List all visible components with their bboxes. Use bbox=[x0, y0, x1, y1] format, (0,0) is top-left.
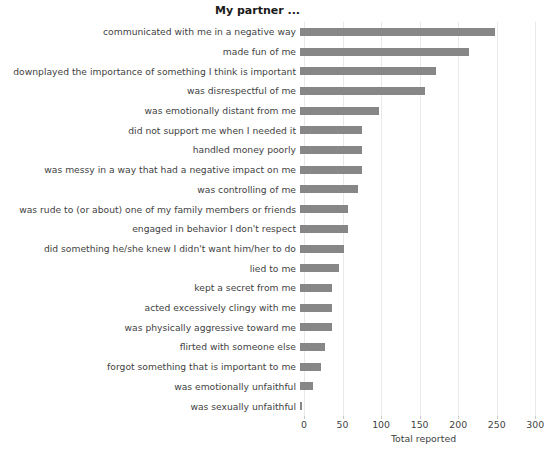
bar-track bbox=[300, 239, 543, 259]
bar-track bbox=[300, 298, 543, 318]
bar-row[interactable]: was rude to (or about) one of my family … bbox=[0, 199, 543, 219]
x-tick-label: 200 bbox=[449, 419, 467, 430]
bar-row[interactable]: engaged in behavior I don't respect bbox=[0, 219, 543, 239]
bar-track bbox=[300, 318, 543, 338]
x-tick-label: 300 bbox=[526, 419, 544, 430]
bar[interactable] bbox=[300, 343, 325, 351]
bar-track bbox=[300, 140, 543, 160]
bar-row[interactable]: made fun of me bbox=[0, 42, 543, 62]
x-tick-label: 50 bbox=[337, 419, 349, 430]
bar-track bbox=[300, 219, 543, 239]
bar-track bbox=[300, 199, 543, 219]
bar-category-label: flirted with someone else bbox=[0, 342, 300, 351]
bar-category-label: was rude to (or about) one of my family … bbox=[0, 205, 300, 214]
bar-category-label: acted excessively clingy with me bbox=[0, 303, 300, 312]
bar-row[interactable]: lied to me bbox=[0, 258, 543, 278]
bar-track bbox=[300, 101, 543, 121]
bar-track bbox=[300, 22, 543, 42]
x-axis: 050100150200250300 bbox=[304, 416, 543, 428]
x-tick-label: 250 bbox=[488, 419, 506, 430]
bar-row[interactable]: was messy in a way that had a negative i… bbox=[0, 160, 543, 180]
bar-category-label: was disrespectful of me bbox=[0, 86, 300, 95]
bar-row[interactable]: was disrespectful of me bbox=[0, 81, 543, 101]
bar[interactable] bbox=[300, 382, 313, 390]
bar[interactable] bbox=[300, 28, 495, 36]
bar-track bbox=[300, 42, 543, 62]
bar[interactable] bbox=[300, 402, 302, 410]
bar[interactable] bbox=[300, 205, 348, 213]
bar-category-label: was emotionally distant from me bbox=[0, 106, 300, 115]
bar[interactable] bbox=[300, 166, 362, 174]
bar-track bbox=[300, 180, 543, 200]
bar[interactable] bbox=[300, 185, 358, 193]
bar-category-label: was messy in a way that had a negative i… bbox=[0, 165, 300, 174]
bar[interactable] bbox=[300, 363, 321, 371]
bar-category-label: engaged in behavior I don't respect bbox=[0, 224, 300, 233]
bar-category-label: made fun of me bbox=[0, 47, 300, 56]
bar[interactable] bbox=[300, 126, 362, 134]
bar-row[interactable]: was physically aggressive toward me bbox=[0, 318, 543, 338]
bar[interactable] bbox=[300, 146, 362, 154]
chart-title: My partner ... bbox=[0, 4, 300, 17]
bar[interactable] bbox=[300, 48, 469, 56]
bar-track bbox=[300, 357, 543, 377]
x-tick-label: 150 bbox=[411, 419, 429, 430]
x-tick-label: 100 bbox=[372, 419, 390, 430]
bar-row[interactable]: did something he/she knew I didn't want … bbox=[0, 239, 543, 259]
bar-category-label: communicated with me in a negative way bbox=[0, 27, 300, 36]
bar-rows: communicated with me in a negative wayma… bbox=[0, 22, 543, 416]
bar-row[interactable]: communicated with me in a negative way bbox=[0, 22, 543, 42]
bar-track bbox=[300, 377, 543, 397]
bar-track bbox=[300, 278, 543, 298]
bar-category-label: did something he/she knew I didn't want … bbox=[0, 244, 300, 253]
bar-category-label: downplayed the importance of something I… bbox=[0, 67, 300, 76]
bar[interactable] bbox=[300, 245, 344, 253]
bar-row[interactable]: was emotionally distant from me bbox=[0, 101, 543, 121]
bar-category-label: was physically aggressive toward me bbox=[0, 323, 300, 332]
bar-row[interactable]: downplayed the importance of something I… bbox=[0, 61, 543, 81]
bar-track bbox=[300, 258, 543, 278]
bar[interactable] bbox=[300, 284, 332, 292]
bar[interactable] bbox=[300, 107, 379, 115]
bar-track bbox=[300, 121, 543, 141]
bar[interactable] bbox=[300, 67, 436, 75]
bar-category-label: handled money poorly bbox=[0, 145, 300, 154]
bar-category-label: lied to me bbox=[0, 264, 300, 273]
bar-row[interactable]: was emotionally unfaithful bbox=[0, 377, 543, 397]
bar-track bbox=[300, 337, 543, 357]
bar-category-label: was sexually unfaithful bbox=[0, 402, 300, 411]
bar-row[interactable]: handled money poorly bbox=[0, 140, 543, 160]
bar-row[interactable]: forgot something that is important to me bbox=[0, 357, 543, 377]
bar-row[interactable]: acted excessively clingy with me bbox=[0, 298, 543, 318]
bar-row[interactable]: kept a secret from me bbox=[0, 278, 543, 298]
bar-category-label: did not support me when I needed it bbox=[0, 126, 300, 135]
bar-category-label: forgot something that is important to me bbox=[0, 362, 300, 371]
bar[interactable] bbox=[300, 87, 425, 95]
bar-category-label: kept a secret from me bbox=[0, 283, 300, 292]
bar-row[interactable]: was sexually unfaithful bbox=[0, 396, 543, 416]
x-axis-title: Total reported bbox=[304, 433, 543, 444]
bar-row[interactable]: flirted with someone else bbox=[0, 337, 543, 357]
bar[interactable] bbox=[300, 225, 348, 233]
bar-row[interactable]: was controlling of me bbox=[0, 180, 543, 200]
bar-track bbox=[300, 81, 543, 101]
bar-row[interactable]: did not support me when I needed it bbox=[0, 121, 543, 141]
bar[interactable] bbox=[300, 323, 332, 331]
bar[interactable] bbox=[300, 304, 332, 312]
bar[interactable] bbox=[300, 264, 339, 272]
bar-category-label: was controlling of me bbox=[0, 185, 300, 194]
x-tick-label: 0 bbox=[301, 419, 307, 430]
bar-track bbox=[300, 61, 543, 81]
bar-category-label: was emotionally unfaithful bbox=[0, 382, 300, 391]
bar-track bbox=[300, 160, 543, 180]
bar-track bbox=[300, 396, 543, 416]
